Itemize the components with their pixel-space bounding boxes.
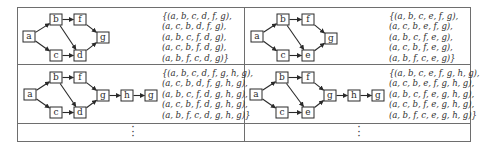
path-list-row2-left: {(a, b, c, d, f, g, h, g), (a, c, b, d, … (162, 68, 253, 120)
node-label-b: b (280, 14, 286, 24)
path-item: (a, c, b, f, e, g, h, g), (389, 99, 479, 109)
graph-row2-left: abfghgcd (24, 72, 157, 118)
path-item: (a, b, f, c, e, g)} (389, 53, 458, 63)
path-item: (a, b, c, f, e, g, h, g), (389, 89, 479, 99)
path-item: (a, c, b, d, f, g), (162, 21, 232, 31)
node-label-b: b (53, 72, 59, 82)
ellipsis-dot-icon: · (357, 135, 361, 140)
path-item: {(a, b, c, d, f, g, h, g), (162, 68, 253, 78)
path-item: (a, c, b, f, d, g, h, g), (162, 99, 253, 109)
path-list-row1-right: {(a, b, c, e, f, g), (a, c, b, e, f, g),… (389, 11, 458, 63)
path-item: {(a, b, c, e, f, g), (389, 11, 458, 21)
node-label-g: g (100, 90, 106, 100)
edge-arrow-a-b (264, 24, 277, 33)
node-label-g2: g (375, 90, 381, 100)
vertical-ellipsis-left: · · · (131, 126, 135, 140)
edge-arrow-e-g (315, 43, 325, 50)
path-item: (a, c, b, e, f, g, h, g), (389, 78, 479, 88)
graph-row1-left: abfgcd (23, 14, 109, 61)
edge-arrow-b-d (60, 84, 76, 107)
node-label-e: e (305, 107, 310, 117)
path-item: {(a, b, c, d, f, g), (162, 11, 232, 21)
node-label-b: b (279, 72, 285, 82)
edge-arrow-a-c (37, 99, 50, 108)
edge-arrow-a-b (36, 24, 50, 33)
edge-arrow-f-g (315, 25, 325, 33)
edge-arrow-a-b (263, 82, 276, 91)
graph-row2-right: abfghgce (250, 72, 384, 118)
node-label-c: c (279, 107, 284, 117)
path-item: (a, c, b, e, f, g), (389, 21, 458, 31)
edge-arrow-b-d (60, 26, 76, 50)
node-label-g: g (328, 33, 334, 43)
node-label-c: c (53, 50, 58, 60)
ellipsis-dot-icon: · (131, 135, 135, 140)
node-label-h: h (351, 90, 357, 100)
node-label-a: a (27, 89, 33, 99)
node-label-a: a (26, 31, 32, 41)
path-list-row2-right: {(a, b, c, e, f, g, h, g), (a, c, b, e, … (389, 68, 479, 120)
edge-arrow-a-c (264, 41, 277, 51)
edge-arrow-a-c (36, 41, 50, 51)
node-label-a: a (253, 89, 259, 99)
node-label-g2: g (148, 90, 154, 100)
path-item: (a, b, f, c, d, g)} (162, 53, 232, 63)
path-item: (a, c, b, f, d, g), (162, 42, 232, 52)
node-label-c: c (280, 50, 285, 60)
path-item: (a, b, c, f, d, g), (162, 32, 232, 42)
edge-arrow-f-g (87, 25, 97, 33)
node-label-g: g (327, 90, 333, 100)
edge-arrow-d-g (87, 43, 97, 51)
edge-arrow-f-g (87, 83, 97, 91)
path-item: (a, b, f, c, d, g, h, g)} (162, 110, 253, 120)
path-list-row1-left: {(a, b, c, d, f, g), (a, c, b, d, f, g),… (162, 11, 232, 63)
edge-arrow-d-g (87, 100, 97, 107)
edge-arrow-b-e (286, 84, 303, 107)
path-item: (a, b, f, c, e, g, h, g)} (389, 110, 479, 120)
node-label-c: c (53, 107, 58, 117)
path-item: (a, b, c, f, d, g, h, g), (162, 89, 253, 99)
edge-arrow-f-g (315, 83, 324, 90)
node-label-d: d (77, 107, 83, 117)
node-label-a: a (254, 31, 260, 41)
vertical-ellipsis-right: · · · (357, 126, 361, 140)
path-item: (a, c, b, f, e, g), (389, 42, 458, 52)
node-label-b: b (53, 14, 59, 24)
node-label-e: e (305, 50, 310, 60)
node-label-h: h (124, 90, 130, 100)
path-item: {(a, b, c, e, f, g, h, g), (389, 68, 479, 78)
graph-row1-right: abfgce (251, 14, 337, 61)
edge-arrow-e-g (315, 101, 324, 108)
node-label-g: g (100, 32, 106, 42)
path-item: (a, c, b, d, f, g, h, g), (162, 78, 253, 88)
node-label-d: d (77, 50, 83, 60)
edge-arrow-a-c (263, 99, 276, 108)
path-item: (a, b, c, f, e, g), (389, 32, 458, 42)
edge-arrow-b-e (287, 26, 304, 50)
edge-arrow-a-b (37, 82, 50, 91)
